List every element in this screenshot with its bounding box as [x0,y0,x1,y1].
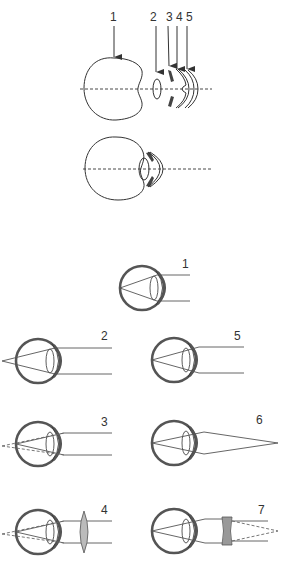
ray-diagram-3: 3 [2,415,112,466]
label-6: 6 [256,413,263,427]
ray-diagram-2: 2 [2,329,112,383]
ray-diagram-4: 4 [2,503,112,554]
label-1: 1 [110,10,117,24]
label-3: 3 [166,10,173,24]
label-1: 1 [182,257,189,271]
label-4: 4 [176,10,183,24]
cornea-inner-outline [178,69,189,108]
ray-diagram-5: 5 [152,329,244,382]
ray-diagram-7: 7 [152,503,278,553]
iris-top-shape [168,70,174,82]
ray-diagram-1: 1 [120,257,190,310]
assembled-eye-view [83,137,212,200]
label-2: 2 [101,329,108,343]
label-4: 4 [101,503,108,517]
label-5: 5 [186,10,193,24]
label-7: 7 [258,503,265,517]
label-2: 2 [150,10,157,24]
iris-bottom-shape [168,96,174,107]
convex-lens-icon [80,511,88,553]
arrow-icon [168,26,169,66]
label-5: 5 [234,329,241,343]
exploded-eye-view: 1 2 3 4 5 [80,10,212,120]
ray-diagram-6: 6 [152,413,278,465]
concave-lens-icon [222,517,232,545]
eye-anatomy-diagram: 1 2 3 4 5 [0,0,289,562]
eyeball-shape [85,137,144,200]
label-3: 3 [101,415,108,429]
